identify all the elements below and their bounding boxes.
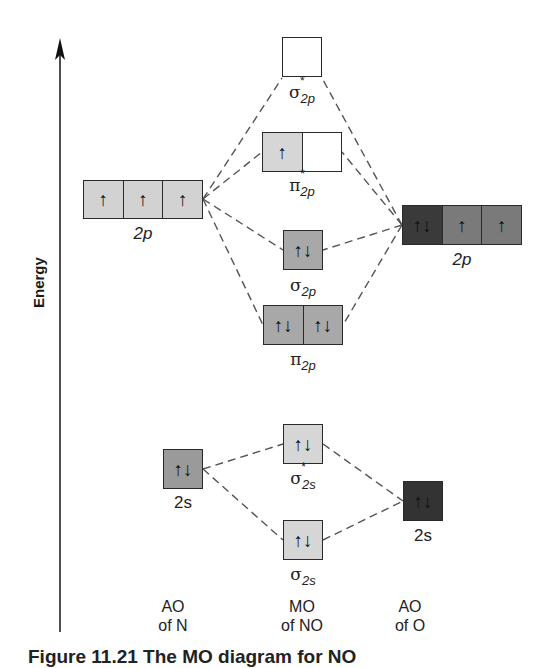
orbital-pi-2p: ↑↓ ↑↓	[263, 305, 343, 345]
orbital-cell: ↑	[442, 206, 482, 244]
label-pi-2p: π2p	[290, 349, 316, 370]
label-o-2s: 2s	[414, 526, 432, 546]
label-n-2s: 2s	[174, 493, 192, 513]
orbital-o-2s: ↑↓	[403, 481, 443, 521]
label-sigma-2s: σ2s	[290, 564, 315, 585]
orbital-n-2s: ↑↓	[163, 449, 203, 489]
column-ao-of-n: AO of N	[158, 597, 187, 635]
orbital-cell: ↑	[162, 181, 202, 218]
orbital-cell	[302, 133, 342, 171]
orbital-cell: ↑↓	[284, 521, 322, 559]
label-sigma-2p: σ2p	[290, 275, 316, 296]
figure-caption: Figure 11.21 The MO diagram for NO	[28, 646, 356, 668]
orbital-cell: ↑↓	[403, 206, 442, 244]
orbital-cell: ↑	[481, 206, 521, 244]
label-pi-star-2p: π*2p	[289, 175, 315, 196]
energy-axis	[55, 38, 65, 632]
orbital-cell: ↑	[123, 181, 163, 218]
orbital-sigma-2s: ↑↓	[283, 520, 323, 560]
energy-axis-label: Energy	[30, 257, 47, 308]
label-n-2p: 2p	[134, 224, 153, 244]
orbital-cell: ↑↓	[164, 450, 202, 488]
orbital-sigma-star-2p	[282, 37, 322, 77]
orbital-cell	[283, 38, 321, 76]
orbital-sigma-2p: ↑↓	[283, 230, 323, 270]
column-mo-of-no: MO of NO	[281, 597, 323, 635]
orbital-n-2p: ↑ ↑ ↑	[83, 180, 203, 219]
label-o-2p: 2p	[453, 250, 472, 270]
orbital-cell: ↑↓	[284, 425, 322, 463]
orbital-o-2p: ↑↓ ↑ ↑	[402, 205, 522, 245]
orbital-cell: ↑↓	[264, 306, 303, 344]
orbital-pi-star-2p: ↑	[262, 132, 342, 172]
orbital-cell: ↑	[263, 133, 302, 171]
orbital-cell: ↑	[84, 181, 123, 218]
orbital-sigma-star-2s: ↑↓	[283, 424, 323, 464]
label-sigma-star-2s: σ*2s	[290, 468, 315, 489]
label-sigma-star-2p: σ*2p	[289, 82, 315, 103]
orbital-cell: ↑↓	[404, 482, 442, 520]
orbital-cell: ↑↓	[303, 306, 343, 344]
orbital-cell: ↑↓	[284, 231, 322, 269]
column-ao-of-o: AO of O	[395, 597, 425, 635]
